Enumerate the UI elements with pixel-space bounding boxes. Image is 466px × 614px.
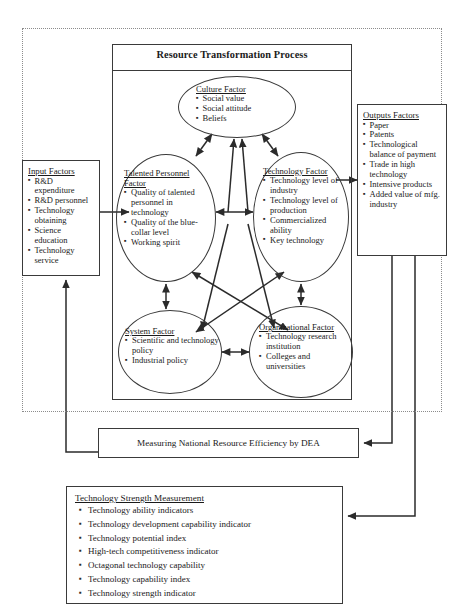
output-factors-list: Paper Patents Technological balance of p… bbox=[363, 121, 442, 210]
list-item: Technology development capability indica… bbox=[75, 518, 336, 532]
list-item: Beliefs bbox=[196, 114, 290, 124]
list-item: Trade in high technology bbox=[363, 160, 442, 180]
talented-personnel-factor-title: Talented Personnel Factor bbox=[124, 168, 212, 188]
dea-measurement-box: Measuring National Resource Efficiency b… bbox=[98, 428, 359, 458]
list-item: Working spirit bbox=[124, 238, 212, 248]
list-item: Technology obtaining bbox=[28, 206, 95, 226]
list-item: Octagonal technology capability bbox=[75, 559, 336, 573]
list-item: Technology ability indicators bbox=[75, 504, 336, 518]
list-item: Colleges and universities bbox=[259, 352, 349, 372]
talented-personnel-factor-list: Quality of talented personnel in technol… bbox=[124, 188, 212, 248]
list-item: Technology service bbox=[28, 246, 95, 266]
output-factors-title: Outputs Factors bbox=[363, 110, 442, 121]
organizational-factor-list: Technology research institution Colleges… bbox=[259, 332, 349, 372]
list-item: Commercialized ability bbox=[263, 216, 347, 236]
list-item: High-tech competitiveness indicator bbox=[75, 545, 336, 559]
talented-personnel-factor-content: Talented Personnel Factor Quality of tal… bbox=[124, 168, 212, 248]
list-item: Technological balance of payment bbox=[363, 140, 442, 160]
list-item: Quality of the blue-collar level bbox=[124, 218, 212, 238]
list-item: Industrial policy bbox=[125, 356, 219, 366]
input-factors-title: Input Factors bbox=[28, 166, 95, 177]
input-factors-list: R&D expenditure R&D personnel Technology… bbox=[28, 177, 95, 266]
list-item: Technology research institution bbox=[259, 332, 349, 352]
list-item: Key technology bbox=[263, 236, 347, 246]
list-item: Technology level of production bbox=[263, 196, 347, 216]
list-item: R&D expenditure bbox=[28, 177, 95, 197]
system-factor-list: Scientific and technology policy Industr… bbox=[125, 336, 219, 366]
title-divider bbox=[113, 70, 351, 71]
list-item: Technology capability index bbox=[75, 573, 336, 587]
culture-factor-content: Culture Factor Social value Social attit… bbox=[196, 84, 290, 124]
input-factors-box: Input Factors R&D expenditure R&D person… bbox=[22, 160, 100, 276]
list-item: Science education bbox=[28, 226, 95, 246]
system-factor-content: System Factor Scientific and technology … bbox=[125, 326, 219, 366]
culture-factor-list: Social value Social attitude Beliefs bbox=[196, 94, 290, 124]
technology-factor-content: Technology Factor Technology level of in… bbox=[263, 166, 347, 246]
list-item: Added value of mfg. industry bbox=[363, 190, 442, 210]
list-item: Technology strength indicator bbox=[75, 587, 336, 601]
list-item: Quality of talented personnel in technol… bbox=[124, 188, 212, 218]
list-item: Scientific and technology policy bbox=[125, 336, 219, 356]
technology-strength-measurement-box: Technology Strength Measurement Technolo… bbox=[66, 486, 343, 604]
technology-strength-measurement-title: Technology Strength Measurement bbox=[75, 493, 336, 504]
diagram-canvas: Resource Transformation Process Culture … bbox=[0, 0, 466, 614]
resource-transformation-process-title: Resource Transformation Process bbox=[112, 49, 352, 60]
output-factors-box: Outputs Factors Paper Patents Technologi… bbox=[357, 104, 447, 256]
dea-measurement-label: Measuring National Resource Efficiency b… bbox=[137, 438, 320, 448]
list-item: Technology potential index bbox=[75, 532, 336, 546]
technology-strength-measurement-list: Technology ability indicators Technology… bbox=[75, 504, 336, 600]
list-item: Technology level of industry bbox=[263, 176, 347, 196]
technology-factor-list: Technology level of industry Technology … bbox=[263, 176, 347, 246]
organizational-factor-content: Organizational Factor Technology researc… bbox=[259, 322, 349, 372]
